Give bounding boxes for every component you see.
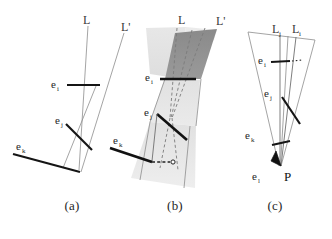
panel-a-label-e-i: e i — [51, 78, 59, 93]
panel-c-label-Lj: L j — [272, 22, 281, 38]
figure-root: L L' e i e j e k — [0, 0, 332, 239]
svg-text:e: e — [16, 140, 21, 152]
svg-text:k: k — [251, 136, 255, 144]
panel-b-label-e-j: e j — [144, 106, 152, 121]
svg-text:e: e — [144, 106, 149, 118]
svg-text:i: i — [57, 85, 59, 93]
svg-text:i: i — [299, 30, 301, 38]
svg-text:e: e — [55, 114, 60, 126]
svg-text:i: i — [264, 61, 266, 69]
panel-c-fan-top-bar — [248, 32, 315, 40]
panel-c-label-e-l: e l — [252, 170, 260, 185]
panel-c-edge-i-segment — [271, 61, 290, 62]
svg-text:i: i — [151, 78, 153, 86]
svg-text:j: j — [149, 113, 152, 121]
svg-text:k: k — [119, 141, 123, 149]
panel-a-label-e-j: e j — [55, 114, 63, 129]
panel-b-label-e-k: e k — [113, 134, 123, 149]
panel-c-edge-l-sliver — [271, 151, 281, 166]
panel-a-label-e-k: e k — [16, 140, 26, 155]
svg-text:e: e — [245, 129, 250, 141]
svg-text:e: e — [258, 54, 263, 66]
panel-c-line-Li — [281, 37, 296, 166]
svg-text:k: k — [22, 147, 26, 155]
panel-a-label-L-prime: L' — [121, 20, 131, 34]
panel-b-label-L-prime: L' — [216, 14, 226, 28]
panel-b-shade-middle — [150, 80, 200, 126]
caption-panel-c: (c) — [255, 198, 295, 214]
svg-text:e: e — [145, 71, 150, 83]
svg-text:e: e — [264, 87, 269, 99]
panel-c-label-e-k: e k — [245, 129, 255, 144]
panel-c-label-Li: L i — [292, 22, 301, 38]
panel-b-intersection-marker — [171, 160, 175, 164]
svg-text:j: j — [278, 30, 281, 38]
panel-b-shade-lower — [131, 122, 196, 188]
caption-row: (a) (b) (c) — [0, 198, 332, 224]
svg-text:l: l — [258, 177, 260, 185]
panel-c-edge-j-segment — [282, 97, 300, 124]
panel-c: L j L i e i e j e k e l P — [245, 22, 315, 185]
svg-text:j: j — [60, 121, 63, 129]
svg-text:j: j — [269, 94, 272, 102]
caption-panel-a: (a) — [52, 198, 92, 214]
panel-a-edge-k-segment — [13, 154, 80, 172]
panel-a-line-L — [79, 26, 88, 170]
panel-b: L L' e i e j e k — [110, 13, 226, 188]
panel-c-label-e-j: e j — [264, 87, 272, 102]
panel-a-label-L: L — [83, 13, 90, 27]
panel-c-label-P: P — [284, 169, 291, 184]
svg-text:e: e — [252, 170, 257, 182]
panel-c-label-e-i: e i — [258, 54, 266, 69]
panel-b-label-L: L — [178, 13, 185, 27]
svg-text:e: e — [51, 78, 56, 90]
caption-panel-b: (b) — [155, 198, 195, 214]
panel-c-pencil-left-outer — [248, 32, 279, 166]
svg-text:e: e — [113, 134, 118, 146]
